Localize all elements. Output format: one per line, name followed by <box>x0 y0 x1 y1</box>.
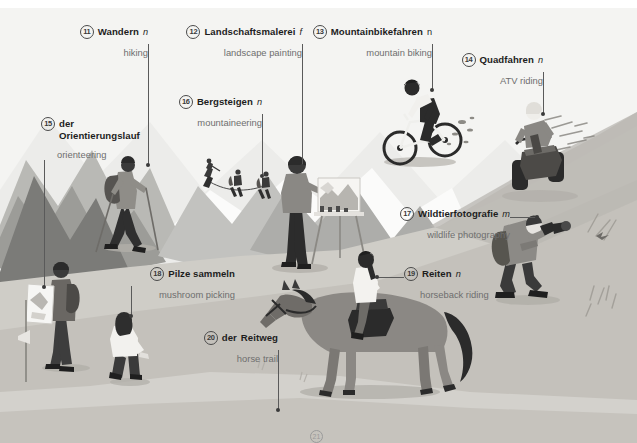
leader-line-orientierungslauf <box>44 160 45 287</box>
callout-gender-mountainbikefahren: n <box>427 27 432 38</box>
callout-de-reiten: Reiten <box>422 268 452 280</box>
callout-en-wandern: hiking <box>124 47 149 58</box>
leader-line-mountainbikefahren <box>432 44 433 90</box>
leader-dot-wandern <box>146 163 150 167</box>
callout-de-quadfahren: Quadfahren <box>480 54 534 66</box>
footer-callout-number: 21 <box>310 430 323 443</box>
callout-number-13: 13 <box>313 25 327 39</box>
leader-dot-quadfahren <box>541 112 545 116</box>
leader-dot-pilze <box>129 314 133 318</box>
footer-callout-clipped: 21 <box>0 430 637 443</box>
callout-en-quadfahren: ATV riding <box>500 75 543 86</box>
callout-mountainbikefahren[interactable]: 13 Mountainbikefahren n mountain biking <box>308 26 432 61</box>
leader-dot-wildtierfotografie <box>535 215 539 219</box>
callout-de-mountainbikefahren: Mountainbikefahren <box>331 26 423 38</box>
leader-line-landschaftsmalerei <box>302 44 303 165</box>
leader-dot-mountainbikefahren <box>430 88 434 92</box>
callout-gender-wildtierfotografie: m <box>502 209 510 220</box>
callout-bergsteigen[interactable]: 16 Bergsteigen n mountaineering <box>168 96 262 131</box>
leader-dot-landschaftsmalerei <box>300 164 304 168</box>
leader-line-wildtierfotografie <box>510 217 538 218</box>
callout-number-16: 16 <box>179 95 193 109</box>
callout-en-mountainbikefahren: mountain biking <box>366 47 432 58</box>
callout-de-reitweg: Reitweg <box>241 332 278 344</box>
callout-reitweg[interactable]: 20 der Reitweg horse trail <box>196 332 278 367</box>
callout-number-18: 18 <box>150 267 164 281</box>
callout-en-wildtierfotografie: wildlife photography <box>427 229 510 240</box>
callout-en-landschaftsmalerei: landscape painting <box>224 47 302 58</box>
callout-number-17: 17 <box>400 207 414 221</box>
callout-en-reiten: horseback riding <box>420 289 489 300</box>
dictionary-page: 11 Wandern n hiking 12 Landschaftsmalere… <box>0 0 637 443</box>
callout-de-bergsteigen: Bergsteigen <box>197 96 253 108</box>
callout-gender-wandern: n <box>143 27 148 38</box>
callout-de-orientierungslauf: Orientierungslauf <box>59 130 140 142</box>
callout-reiten[interactable]: 19 Reiten n horseback riding <box>404 268 500 303</box>
callout-article-reitweg: der <box>222 332 237 344</box>
leader-dot-reitweg <box>276 408 280 412</box>
callout-de-pilze-sammeln: Pilze sammeln <box>168 268 235 280</box>
leader-line-reiten <box>377 277 404 278</box>
leader-line-bergsteigen <box>262 114 263 176</box>
callout-en-reitweg: horse trail <box>237 353 278 364</box>
callout-orientierungslauf[interactable]: 15 der Orientierungslauf orienteering <box>41 118 161 162</box>
callout-quadfahren[interactable]: 14 Quadfahren n ATV riding <box>452 54 543 89</box>
callout-number-14: 14 <box>462 53 476 67</box>
leader-line-quadfahren <box>543 72 544 114</box>
leader-line-reitweg <box>278 350 279 410</box>
callout-wildtierfotografie[interactable]: 17 Wildtierfotografie m wildlife photogr… <box>386 208 510 243</box>
callout-en-orientierungslauf: orienteering <box>57 149 107 160</box>
callout-landschaftsmalerei[interactable]: 12 Landschaftsmalerei f landscape painti… <box>160 26 302 61</box>
callout-pilze-sammeln[interactable]: 18 Pilze sammeln mushroom picking <box>131 268 235 303</box>
callout-en-pilze-sammeln: mushroom picking <box>159 289 235 300</box>
callout-number-11: 11 <box>80 25 94 39</box>
callout-number-15: 15 <box>41 117 55 131</box>
callout-gender-reiten: n <box>456 269 461 280</box>
callout-article-orientierungslauf: der <box>59 118 140 130</box>
callout-gender-bergsteigen: n <box>257 97 262 108</box>
callout-number-12: 12 <box>186 25 200 39</box>
callout-gender-landschaftsmalerei: f <box>299 27 302 38</box>
leader-dot-orientierungslauf <box>42 285 46 289</box>
callout-wandern[interactable]: 11 Wandern n hiking <box>68 26 148 61</box>
callout-de-landschaftsmalerei: Landschaftsmalerei <box>204 26 295 38</box>
callout-number-20: 20 <box>204 331 218 345</box>
callout-gender-quadfahren: n <box>538 55 543 66</box>
callout-number-19: 19 <box>404 267 418 281</box>
leader-dot-reiten <box>375 275 379 279</box>
leader-dot-bergsteigen <box>260 174 264 178</box>
callout-en-bergsteigen: mountaineering <box>197 117 262 128</box>
callout-de-wandern: Wandern <box>98 26 139 38</box>
callout-de-wildtierfotografie: Wildtierfotografie <box>418 208 498 220</box>
